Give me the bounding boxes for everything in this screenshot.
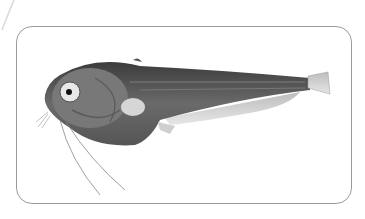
fish-illustration <box>0 0 365 219</box>
